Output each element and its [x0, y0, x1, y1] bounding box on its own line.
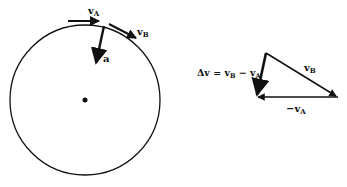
- svg-text:vB: vB: [136, 26, 149, 39]
- diagram-canvas: vA vB a vB −vA Δv = vB − vA: [0, 0, 347, 187]
- triangle-vb-arrow: [266, 53, 336, 96]
- svg-text:−vA: −vA: [286, 103, 306, 116]
- svg-text:vA: vA: [87, 5, 100, 18]
- triangle-neg-va-label: −v: [286, 103, 301, 114]
- svg-text:vB: vB: [303, 62, 316, 75]
- delta-v-equation: Δv = vB − vA: [197, 67, 262, 80]
- center-point: [83, 98, 88, 103]
- acceleration-label: a: [103, 53, 110, 64]
